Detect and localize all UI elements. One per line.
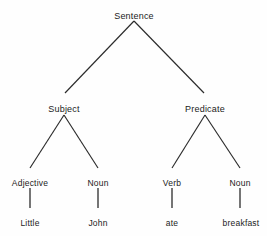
edge-sentence-predicate <box>134 21 204 93</box>
node-noun-left: Noun <box>87 178 108 189</box>
node-adjective: Adjective <box>12 178 48 189</box>
tree-edges-layer <box>0 0 267 236</box>
node-little: Little <box>20 218 39 229</box>
edge-predicate-noun <box>205 115 240 168</box>
edge-subject-adjective <box>30 115 64 168</box>
node-verb: Verb <box>163 178 181 189</box>
edge-subject-noun <box>64 115 98 168</box>
node-noun-right: Noun <box>229 178 250 189</box>
node-sentence: Sentence <box>114 11 154 22</box>
edge-sentence-subject <box>65 21 134 93</box>
edge-predicate-verb <box>172 115 205 168</box>
node-subject: Subject <box>48 104 79 115</box>
node-john: John <box>88 218 107 229</box>
node-breakfast: breakfast <box>223 218 260 229</box>
node-predicate: Predicate <box>185 104 225 115</box>
node-ate: ate <box>166 218 178 229</box>
parse-tree-diagram: Sentence Subject Predicate Adjective Nou… <box>0 0 267 236</box>
